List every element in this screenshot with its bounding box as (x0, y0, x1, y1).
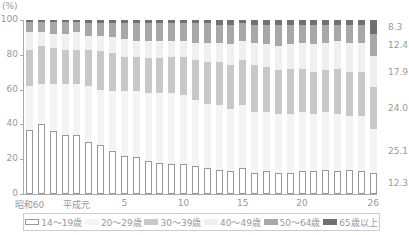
bar-segment (370, 56, 377, 87)
bar-segment (50, 20, 57, 22)
bar-segment (26, 20, 33, 22)
bar-segment (251, 65, 258, 112)
bar-segment (287, 114, 294, 173)
bar-segment (263, 112, 270, 171)
bar-segment (299, 20, 306, 25)
stacked-bar (334, 0, 341, 235)
bar-segment (62, 50, 69, 85)
right-value-label: 25.1 (388, 146, 408, 156)
bar-segment (145, 93, 152, 161)
x-tick-label: 10 (178, 198, 189, 208)
bar-segment (239, 105, 246, 168)
bar-segment (192, 60, 199, 100)
bar-segment (50, 48, 57, 85)
bar-segment (204, 20, 211, 23)
stacked-bar (168, 0, 175, 235)
x-tick-label: 昭和60 (15, 198, 44, 211)
bar-segment (204, 43, 211, 62)
bar-segment (109, 23, 116, 37)
bar-segment (334, 69, 341, 114)
bar-segment (346, 25, 353, 42)
bar-segment (334, 20, 341, 25)
bar-segment (216, 62, 223, 106)
bar-segment (62, 84, 69, 134)
bar-segment (310, 171, 317, 194)
y-axis-line (23, 20, 24, 195)
bar-segment (85, 142, 92, 194)
right-value-label: 8.3 (388, 22, 402, 32)
bar-segment (85, 20, 92, 23)
y-tick-label: 80 (0, 49, 18, 59)
bar-segment (334, 25, 341, 41)
stacked-bar (287, 0, 294, 235)
bar-segment (346, 20, 353, 25)
bar-segment (310, 20, 317, 25)
stacked-bar (346, 0, 353, 235)
bar-segment (287, 20, 294, 25)
bar-segment (358, 25, 365, 42)
stacked-bar (145, 0, 152, 235)
legend-label: 30～39歳 (160, 216, 201, 229)
bar-segment (299, 43, 306, 69)
bar-segment (216, 105, 223, 169)
bar-segment (109, 91, 116, 150)
bar-segment (26, 22, 33, 32)
bar-segment (216, 25, 223, 42)
bar-segment (168, 41, 175, 57)
bar-segment (216, 170, 223, 194)
bar-segment (287, 44, 294, 68)
legend: 14～19歳20～29歳30～39歳40～49歳50～64歳65歳以上 (23, 213, 380, 231)
legend-item: 20～29歳 (85, 216, 142, 229)
bar-segment (85, 86, 92, 142)
bar-segment (121, 20, 128, 23)
bar-segment (287, 25, 294, 44)
legend-item: 40～49歳 (204, 216, 261, 229)
bar-segment (73, 20, 80, 22)
bar-segment (251, 112, 258, 173)
stacked-bar (263, 0, 270, 235)
bar-segment (239, 20, 246, 23)
bar-segment (156, 41, 163, 58)
legend-swatch-icon (144, 219, 158, 225)
y-tick-label: 100 (0, 14, 18, 24)
bar-segment (73, 22, 80, 32)
bar-segment (346, 116, 353, 170)
bar-segment (73, 135, 80, 194)
bar-segment (38, 124, 45, 194)
bar-segment (263, 44, 270, 67)
bar-segment (121, 156, 128, 194)
stacked-bar (156, 0, 163, 235)
bar-segment (168, 23, 175, 40)
bar-segment (97, 23, 104, 35)
bar-segment (322, 112, 329, 169)
bar-segment (38, 46, 45, 84)
right-value-label: 24.0 (388, 103, 408, 113)
legend-swatch-icon (204, 219, 218, 225)
stacked-bar (133, 0, 140, 235)
bar-segment (192, 20, 199, 23)
y-axis-unit: (%) (2, 1, 18, 11)
stacked-bar (50, 0, 57, 235)
bar-segment (263, 171, 270, 194)
bar-segment (251, 173, 258, 194)
bar-segment (322, 25, 329, 42)
bar-segment (133, 57, 140, 92)
bar-segment (334, 171, 341, 194)
bar-segment (145, 161, 152, 194)
y-tick-label: 20 (0, 153, 18, 163)
legend-swatch-icon (264, 219, 278, 225)
stacked-bar (192, 0, 199, 235)
bar-segment (156, 93, 163, 163)
bar-segment (109, 53, 116, 91)
bar-segment (263, 25, 270, 44)
bar-segment (204, 62, 211, 104)
bar-segment (227, 171, 234, 194)
y-tick-label: 40 (0, 118, 18, 128)
stacked-bar (109, 0, 116, 235)
bar-segment (322, 70, 329, 112)
bar-segment (239, 168, 246, 194)
bar-segment (145, 23, 152, 40)
legend-label: 65歳以上 (339, 216, 377, 229)
bar-segment (38, 20, 45, 22)
bar-segment (156, 23, 163, 40)
